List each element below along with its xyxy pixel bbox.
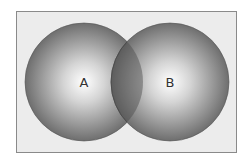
set-b-label: B <box>166 75 175 90</box>
venn-diagram: A B <box>0 0 248 163</box>
set-a-label: A <box>80 75 89 90</box>
